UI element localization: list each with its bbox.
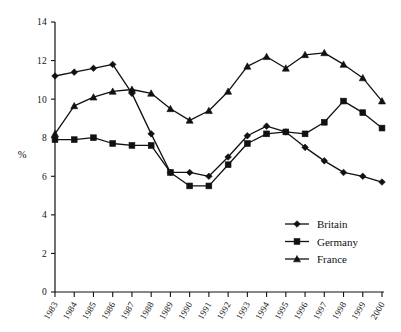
data-point bbox=[263, 53, 270, 59]
data-point bbox=[282, 65, 289, 71]
data-point bbox=[359, 173, 366, 180]
data-point bbox=[341, 98, 347, 104]
data-point bbox=[187, 183, 193, 189]
y-tick-label: 6 bbox=[42, 172, 47, 182]
series-france bbox=[52, 49, 386, 136]
data-point bbox=[225, 162, 231, 168]
data-point bbox=[110, 141, 116, 147]
data-point bbox=[264, 131, 270, 137]
x-tick-label: 1985 bbox=[80, 300, 98, 322]
data-point bbox=[71, 102, 78, 108]
legend-label: Germany bbox=[317, 236, 358, 248]
data-point bbox=[283, 129, 289, 135]
x-tick-label: 1996 bbox=[292, 300, 310, 322]
y-tick-label: 4 bbox=[42, 210, 47, 220]
data-point bbox=[129, 143, 135, 149]
series-germany bbox=[52, 98, 385, 189]
x-tick-label: 1995 bbox=[272, 300, 290, 322]
data-point bbox=[91, 135, 97, 141]
x-tick-label: 1998 bbox=[330, 300, 348, 322]
data-point bbox=[71, 137, 77, 143]
data-point bbox=[186, 117, 193, 123]
y-axis: 02468101214 bbox=[37, 17, 55, 297]
x-tick-label: 1990 bbox=[176, 300, 194, 322]
chart-legend: BritainGermanyFrance bbox=[285, 218, 358, 265]
x-tick-label: 1993 bbox=[234, 300, 252, 322]
data-point bbox=[206, 183, 212, 189]
data-point bbox=[52, 73, 59, 80]
legend-item-germany: Germany bbox=[285, 236, 358, 248]
data-point bbox=[148, 143, 154, 149]
data-point bbox=[340, 61, 347, 67]
legend-label: France bbox=[317, 253, 347, 265]
chart-figure: 02468101214 1983198419851986198719881989… bbox=[0, 0, 401, 332]
legend-item-france: France bbox=[285, 253, 347, 265]
data-point bbox=[360, 110, 366, 116]
x-tick-label: 1997 bbox=[311, 300, 329, 322]
data-point bbox=[186, 169, 193, 176]
x-tick-label: 1988 bbox=[138, 300, 156, 322]
series-britain bbox=[52, 61, 386, 185]
square-marker-icon bbox=[294, 239, 300, 245]
x-tick-label: 1994 bbox=[253, 300, 271, 322]
data-point bbox=[244, 141, 250, 147]
diamond-marker-icon bbox=[294, 221, 301, 228]
x-tick-label: 1999 bbox=[349, 300, 367, 322]
y-tick-label: 12 bbox=[37, 56, 47, 66]
y-tick-label: 14 bbox=[37, 17, 47, 27]
y-tick-label: 0 bbox=[42, 287, 47, 297]
data-point bbox=[90, 65, 97, 72]
data-point bbox=[379, 179, 386, 186]
series-container bbox=[52, 49, 386, 188]
data-point bbox=[52, 137, 58, 143]
y-tick-label: 10 bbox=[37, 95, 47, 105]
x-tick-label: 1987 bbox=[119, 300, 137, 322]
x-tick-label: 1992 bbox=[215, 300, 233, 321]
y-axis-title: % bbox=[18, 149, 27, 160]
legend-item-britain: Britain bbox=[285, 218, 348, 230]
x-tick-label: 2000 bbox=[369, 300, 387, 322]
y-tick-label: 2 bbox=[42, 249, 47, 259]
x-tick-label: 1986 bbox=[99, 300, 117, 322]
x-axis: 1983198419851986198719881989199019911992… bbox=[42, 292, 387, 321]
x-tick-label: 1991 bbox=[196, 300, 214, 321]
data-point bbox=[71, 69, 78, 76]
legend-label: Britain bbox=[317, 218, 348, 230]
data-point bbox=[148, 131, 155, 138]
x-tick-label: 1983 bbox=[42, 300, 60, 322]
data-point bbox=[340, 169, 347, 176]
x-tick-label: 1989 bbox=[157, 300, 175, 322]
data-point bbox=[168, 170, 174, 176]
data-point bbox=[321, 119, 327, 125]
data-point bbox=[244, 63, 251, 69]
data-point bbox=[302, 131, 308, 137]
data-point bbox=[263, 123, 270, 130]
data-point bbox=[359, 74, 366, 80]
x-tick-label: 1984 bbox=[61, 300, 79, 322]
data-point bbox=[379, 125, 385, 131]
y-tick-label: 8 bbox=[42, 133, 47, 143]
line-chart: 02468101214 1983198419851986198719881989… bbox=[0, 0, 401, 332]
